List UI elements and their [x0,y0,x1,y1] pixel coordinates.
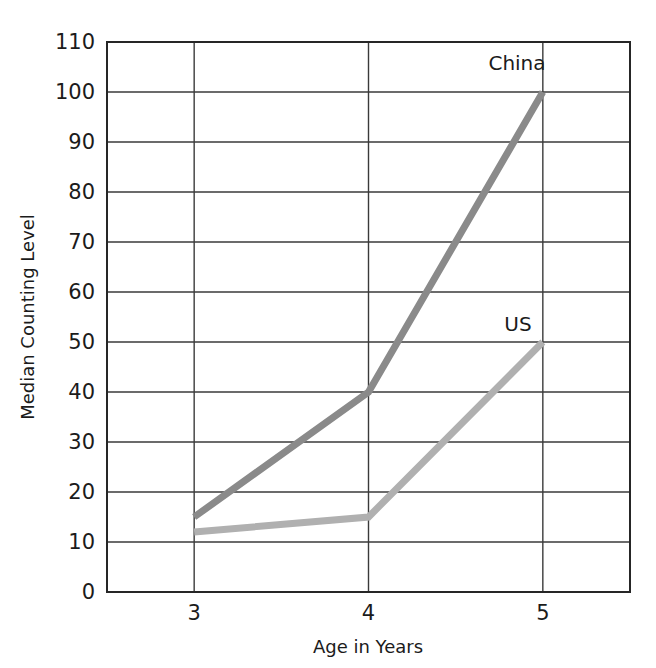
series-label-china: China [488,51,545,75]
y-tick-label: 0 [82,580,95,604]
series-label-us: US [504,312,531,336]
y-tick-label: 110 [55,30,95,54]
x-tick-label: 5 [536,601,549,625]
y-tick-label: 30 [68,430,95,454]
x-tick-label: 4 [362,601,375,625]
y-tick-label: 20 [68,480,95,504]
y-tick-label: 80 [68,180,95,204]
y-tick-label: 60 [68,280,95,304]
y-tick-label: 90 [68,130,95,154]
y-axis-title: Median Counting Level [17,214,38,420]
y-tick-label: 100 [55,80,95,104]
x-axis-title: Age in Years [313,636,423,657]
y-tick-label: 10 [68,530,95,554]
y-tick-label: 70 [68,230,95,254]
chart-figure: 0102030405060708090100110 345 Age in Yea… [0,0,656,668]
line-chart: 0102030405060708090100110 345 Age in Yea… [0,0,656,668]
y-tick-label: 50 [68,330,95,354]
chart-background [0,0,656,668]
x-tick-label: 3 [187,601,200,625]
y-tick-label: 40 [68,380,95,404]
